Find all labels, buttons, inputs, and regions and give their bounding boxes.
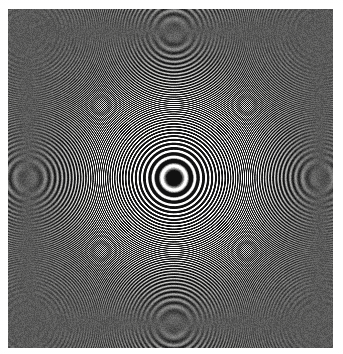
newtons-rings-canvas: [8, 9, 333, 348]
interference-pattern-figure: [0, 0, 343, 354]
